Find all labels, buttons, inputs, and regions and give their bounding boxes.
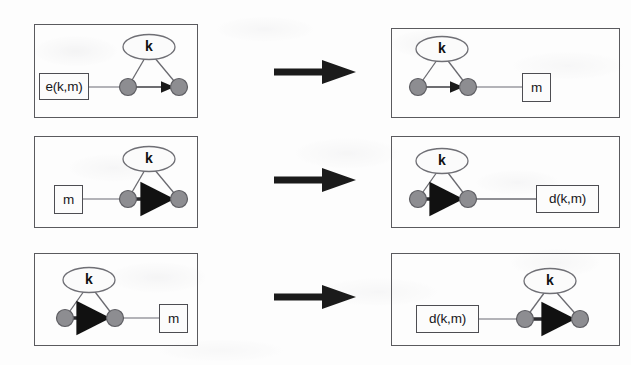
- row1-right-panel: k m: [391, 28, 620, 118]
- transform-arrow-row-2: [272, 165, 358, 195]
- row2-right-node-target: [460, 191, 477, 208]
- row2-right-ellipse-k: [416, 149, 468, 174]
- row1-left-label-box: e(k,m): [39, 73, 89, 100]
- diagram-row-3: k m k d(k,m): [0, 240, 631, 365]
- row1-left-node-source: [120, 79, 137, 96]
- transform-arrow-row-1: [272, 57, 358, 87]
- row1-right-node-target: [460, 79, 477, 96]
- transform-arrow-row-1-glyph: [274, 60, 356, 84]
- row2-left-panel: k m: [34, 136, 198, 228]
- transform-arrow-row-2-glyph: [274, 168, 356, 192]
- row2-left-label-box: m: [54, 185, 83, 214]
- row2-right-node-source: [410, 191, 427, 208]
- diagram-row-1: k e(k,m) k m: [0, 0, 631, 122]
- row1-right-node-source: [410, 79, 427, 96]
- row1-left-ellipse-k: [123, 35, 175, 60]
- row3-right-graph: [392, 254, 621, 347]
- row1-left-graph: [35, 25, 199, 119]
- row1-left-node-target: [171, 79, 188, 96]
- row3-right-node-source: [517, 311, 534, 328]
- row2-right-label-box: d(k,m): [536, 185, 599, 213]
- row1-right-label-box: m: [522, 73, 551, 102]
- row1-right-graph: [392, 29, 621, 119]
- row3-left-panel: k m: [34, 253, 198, 346]
- row3-right-panel: k d(k,m): [391, 253, 620, 346]
- row2-left-ellipse-k: [123, 147, 175, 172]
- row2-left-node-target: [171, 191, 188, 208]
- row3-left-graph: [35, 254, 199, 347]
- row3-left-node-source: [57, 310, 74, 327]
- row2-left-node-source: [120, 191, 137, 208]
- diagram-row-2: k m k d(k,m): [0, 122, 631, 240]
- row3-right-ellipse-k: [524, 269, 576, 294]
- row3-left-node-target: [107, 310, 124, 327]
- transformation-diagram: k e(k,m) k m: [0, 0, 631, 365]
- transform-arrow-row-3-glyph: [274, 285, 356, 309]
- row2-left-graph: [35, 137, 199, 229]
- row1-left-panel: k e(k,m): [34, 24, 198, 118]
- row3-right-node-target: [572, 311, 589, 328]
- transform-arrow-row-3: [272, 282, 358, 312]
- row3-right-label-box: d(k,m): [416, 305, 479, 333]
- row2-right-panel: k d(k,m): [391, 136, 620, 228]
- row2-right-graph: [392, 137, 621, 229]
- row3-left-label-box: m: [159, 304, 188, 333]
- row1-right-ellipse-k: [416, 37, 468, 62]
- row3-left-ellipse-k: [63, 268, 115, 293]
